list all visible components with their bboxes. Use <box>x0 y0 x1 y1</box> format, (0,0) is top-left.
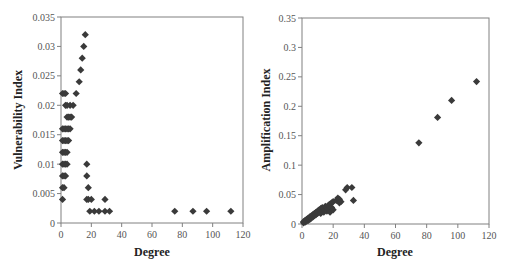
right-diamond-marker <box>350 197 357 204</box>
left-diamond-marker <box>80 43 87 50</box>
left-diamond-marker <box>82 31 89 38</box>
left-diamond-marker <box>101 196 108 203</box>
left-diamond-marker <box>171 208 178 215</box>
left-y-tick-label: 0.025 <box>33 70 56 81</box>
left-x-tick-label: 60 <box>147 229 157 240</box>
right-y-tick-label: 0.35 <box>279 13 297 24</box>
left-y-axis-title: Vulnerability Index <box>11 70 25 170</box>
right-y-tick-label: 0.1 <box>284 160 297 171</box>
left-x-tick-label: 120 <box>236 229 251 240</box>
left-diamond-marker <box>83 161 90 168</box>
left-x-tick-label: 0 <box>59 229 64 240</box>
left-diamond-marker <box>59 196 66 203</box>
right-y-tick-label: 0.3 <box>284 42 297 53</box>
right-diamond-marker <box>434 114 441 121</box>
left-diamond-marker <box>227 208 234 215</box>
left-diamond-marker <box>79 55 86 62</box>
amplification-scatter-chart: 00.050.10.150.20.250.30.3502040608010012… <box>279 13 497 242</box>
right-diamond-marker <box>448 97 455 104</box>
figure: 00.0050.010.0150.020.0250.030.0350204060… <box>0 0 510 268</box>
right-diamond-marker <box>473 78 480 85</box>
right-x-tick-label: 60 <box>391 230 401 241</box>
left-x-tick-label: 20 <box>86 229 96 240</box>
left-diamond-marker <box>77 66 84 73</box>
right-x-tick-label: 40 <box>359 230 369 241</box>
left-x-tick-label: 80 <box>177 229 187 240</box>
right-x-tick-label: 80 <box>422 230 432 241</box>
left-y-tick-label: 0.035 <box>33 12 56 23</box>
left-y-tick-label: 0.02 <box>38 100 56 111</box>
left-y-tick-label: 0.015 <box>33 129 56 140</box>
left-y-tick-label: 0.005 <box>33 188 56 199</box>
left-diamond-marker <box>106 208 113 215</box>
right-x-axis-title: Degree <box>377 245 413 259</box>
right-plot-frame <box>302 18 489 224</box>
right-diamond-marker <box>415 139 422 146</box>
right-diamond-marker <box>348 184 355 191</box>
left-diamond-marker <box>189 208 196 215</box>
right-y-tick-label: 0.15 <box>279 130 297 141</box>
left-diamond-marker <box>76 78 83 85</box>
vulnerability-scatter-chart: 00.0050.010.0150.020.0250.030.0350204060… <box>33 12 251 241</box>
right-y-tick-label: 0.2 <box>284 101 297 112</box>
left-diamond-marker <box>85 184 92 191</box>
left-y-tick-label: 0.01 <box>38 159 56 170</box>
right-x-tick-label: 100 <box>450 230 465 241</box>
right-x-tick-label: 120 <box>482 230 497 241</box>
right-x-tick-label: 20 <box>328 230 338 241</box>
right-x-tick-label: 0 <box>300 230 305 241</box>
left-plot-frame <box>61 17 243 223</box>
left-diamond-marker <box>203 208 210 215</box>
left-diamond-marker <box>73 90 80 97</box>
left-y-tick-label: 0 <box>50 218 55 229</box>
left-x-tick-label: 40 <box>117 229 127 240</box>
left-x-axis-title: Degree <box>134 245 170 259</box>
right-y-tick-label: 0 <box>291 219 296 230</box>
left-x-tick-label: 100 <box>205 229 220 240</box>
right-y-tick-label: 0.25 <box>279 71 297 82</box>
right-y-axis-title: Amplification Index <box>259 68 273 171</box>
left-diamond-marker <box>83 172 90 179</box>
right-y-tick-label: 0.05 <box>279 189 297 200</box>
left-y-tick-label: 0.03 <box>38 41 56 52</box>
